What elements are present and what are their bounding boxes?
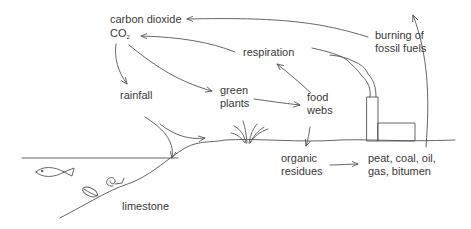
label-carbon-dioxide: carbon dioxide [110,13,182,26]
co2-main: CO [110,27,127,39]
arrow-burning-to-co2 [187,19,368,37]
arrow-rainfall-to-sea [145,117,172,158]
co2-subscript: 2 [127,34,130,40]
label-fossil-deposits: peat, coal, oil,gas, bitumen [368,152,436,178]
food-webs-line2: webs [307,104,333,117]
organic-line1: organic [281,152,323,165]
arrow-plants-to-food-webs [254,99,300,105]
fossil-line2: gas, bitumen [368,165,436,178]
organic-line2: residues [281,165,323,178]
label-co2: CO2 [110,27,130,44]
label-organic-residues: organicresidues [281,152,323,178]
arrow-food-webs-to-respiration [277,64,311,93]
label-food-webs: foodwebs [307,91,333,117]
label-green-plants: greenplants [220,84,249,110]
food-webs-line1: food [307,91,333,104]
fossil-line1: peat, coal, oil, [368,152,436,165]
burning-line1: burning of [375,29,426,42]
arrow-respiration-to-co2 [141,36,235,52]
arrow-residues-to-fossil [330,164,358,165]
fish-icon [36,168,74,177]
snail-icon [107,178,124,187]
label-limestone: limestone [122,200,169,213]
arrow-co2-to-rainfall [115,44,127,84]
shell-icon [81,185,99,199]
burning-line2: fossil fuels [375,42,426,55]
arrow-co2-to-green-plants [129,45,212,91]
label-burning-fossil-fuels: burning offossil fuels [375,29,426,55]
label-rainfall: rainfall [120,89,152,102]
label-respiration: respiration [243,46,294,59]
green-plants-line1: green [220,84,249,97]
factory-icon [367,97,415,141]
arrow-food-webs-to-ground [306,127,310,146]
smoke-icon [312,48,376,97]
green-plants-line2: plants [220,97,249,110]
